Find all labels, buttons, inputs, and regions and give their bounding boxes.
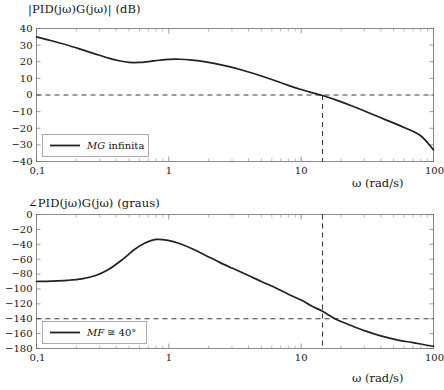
magnitude-response-curve xyxy=(37,37,434,150)
svg-text:−140: −140 xyxy=(5,313,32,324)
magnitude-legend-label: MG infinita xyxy=(86,140,144,151)
svg-text:100: 100 xyxy=(425,352,444,363)
magnitude-legend: MG infinita xyxy=(43,135,149,157)
phase-legend-label: MF ≅ 40° xyxy=(86,327,136,338)
svg-text:−80: −80 xyxy=(11,268,32,279)
svg-text:40: 40 xyxy=(20,23,33,34)
svg-text:−40: −40 xyxy=(11,239,32,250)
svg-text:−120: −120 xyxy=(5,298,32,309)
svg-text:−10: −10 xyxy=(11,106,32,117)
phase-legend: MF ≅ 40° xyxy=(43,322,147,344)
svg-text:0,1: 0,1 xyxy=(30,165,46,176)
phase-plot-panel: ∠PID(jω)G(jω) (graus) 0−20−40−60−80−100−… xyxy=(0,190,444,390)
bode-plot-figure: |PID(jω)G(jω)| (dB) 403020100−10−20−30−4… xyxy=(0,0,444,390)
svg-text:10: 10 xyxy=(20,73,33,84)
magnitude-x-tick-labels: 0,1110100 xyxy=(30,165,444,176)
svg-text:1: 1 xyxy=(166,352,172,363)
magnitude-plot-canvas: 403020100−10−20−30−40 0,1110100 MG infin… xyxy=(0,0,444,195)
svg-text:10: 10 xyxy=(295,165,308,176)
svg-text:−30: −30 xyxy=(11,139,32,150)
phase-y-tick-labels: 0−20−40−60−80−100−120−140−160−180 xyxy=(5,209,32,354)
magnitude-y-tick-labels: 403020100−10−20−30−40 xyxy=(11,23,32,167)
svg-text:−60: −60 xyxy=(11,254,32,265)
svg-text:−20: −20 xyxy=(11,224,32,235)
phase-x-axis-label: ω (rad/s) xyxy=(352,371,404,385)
svg-text:1: 1 xyxy=(166,165,172,176)
magnitude-plot-panel: |PID(jω)G(jω)| (dB) 403020100−10−20−30−4… xyxy=(0,0,444,195)
svg-text:0,1: 0,1 xyxy=(30,352,46,363)
phase-plot-canvas: 0−20−40−60−80−100−120−140−160−180 0,1110… xyxy=(0,190,444,390)
svg-text:−160: −160 xyxy=(5,328,32,339)
svg-text:30: 30 xyxy=(20,40,33,51)
svg-text:0: 0 xyxy=(26,89,32,100)
phase-x-tick-labels: 0,1110100 xyxy=(30,352,444,363)
svg-text:100: 100 xyxy=(425,165,444,176)
svg-text:10: 10 xyxy=(295,352,308,363)
svg-text:0: 0 xyxy=(26,209,32,220)
svg-text:20: 20 xyxy=(20,56,33,67)
svg-text:−100: −100 xyxy=(5,283,32,294)
magnitude-x-axis-label: ω (rad/s) xyxy=(352,176,404,190)
svg-text:−180: −180 xyxy=(5,343,32,354)
svg-text:−20: −20 xyxy=(11,123,32,134)
